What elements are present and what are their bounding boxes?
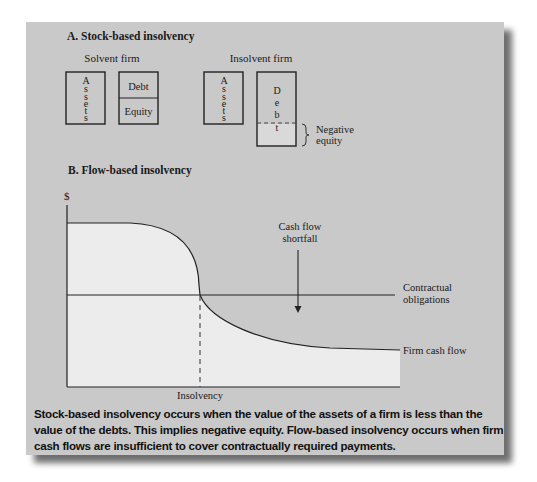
- y-axis-label: $: [64, 190, 70, 202]
- solvent-assets-letters: A s s e t s: [82, 75, 90, 123]
- insolvent-assets-letters: A s s e t s: [220, 75, 228, 123]
- solvent-firm-label: Solvent firm: [84, 52, 140, 64]
- equity-label: Equity: [125, 106, 154, 117]
- svg-text:D: D: [273, 85, 280, 96]
- svg-text:b: b: [275, 109, 280, 120]
- debt-label: Debt: [128, 81, 148, 92]
- insolvent-firm-label: Insolvent firm: [230, 52, 293, 64]
- svg-text:s: s: [222, 112, 226, 123]
- section-a-title: A. Stock-based insolvency: [67, 30, 195, 43]
- arrow-down-icon: [295, 306, 302, 313]
- svg-text:t: t: [276, 122, 279, 133]
- negative-equity-label-2: equity: [316, 135, 343, 146]
- figure-caption: Stock-based insolvency occurs when the v…: [34, 406, 504, 454]
- contractual-label-1: Contractual: [403, 282, 452, 293]
- shortfall-label-1: Cash flow: [279, 221, 322, 232]
- negative-equity-label-1: Negative: [316, 124, 354, 135]
- contractual-label-2: obligations: [403, 294, 450, 305]
- section-b-title: B. Flow-based insolvency: [68, 164, 192, 177]
- cash-flow-area: [67, 223, 400, 387]
- svg-text:e: e: [275, 97, 280, 108]
- firm-cash-flow-label: Firm cash flow: [403, 345, 467, 356]
- brace-icon: [302, 124, 309, 146]
- svg-text:s: s: [84, 112, 88, 123]
- x-axis-label: Insolvency: [177, 390, 224, 401]
- shortfall-label-2: shortfall: [283, 233, 318, 244]
